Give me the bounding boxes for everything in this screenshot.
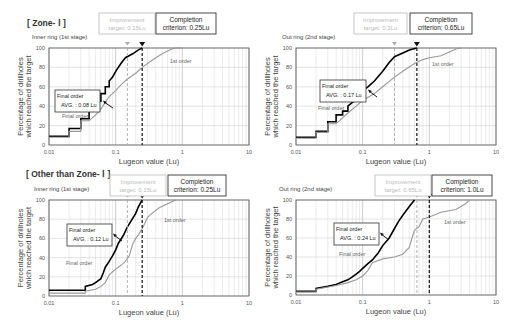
y-tick-label: 40 [286, 254, 292, 260]
completion-criterion-value: criterion: 1.0Lu [441, 186, 484, 193]
y-tick-label: 60 [286, 84, 292, 90]
x-axis-label: Lugeon value (Lu) [366, 307, 427, 316]
y-axis-label: Percentage of drillholeswhich reached th… [16, 55, 33, 139]
completion-criterion-value: criterion: 0.65Lu [418, 24, 465, 31]
y-axis-label: Percentage of drillholeswhich reached th… [263, 206, 280, 290]
y-tick-label: 40 [286, 103, 292, 109]
first-order-label: 1st order [444, 219, 466, 225]
improvement-target-value: target: 0.65Lu [384, 187, 421, 193]
avg-annotation-title: Final order [57, 93, 83, 99]
y-tick-label: 0 [289, 142, 292, 148]
y-tick-label: 0 [42, 293, 45, 299]
avg-annotation-value: AVG. : 0.17 Lu [326, 92, 362, 98]
first-order-label: 1st order [170, 58, 192, 64]
final-order-label: Final order [339, 251, 365, 257]
improvement-target-label: Improvement [109, 17, 144, 23]
chart-panel-1: Inner ring (1st stage)0204060801000.010.… [16, 13, 252, 166]
y-tick-label: 60 [286, 235, 292, 241]
y-tick-label: 80 [39, 216, 45, 222]
y-tick-label: 100 [36, 197, 45, 203]
improvement-target-label: Improvement [120, 179, 155, 185]
chart-panel-4: Out ring (2nd stage)0204060801000.010.11… [263, 175, 499, 316]
completion-criterion-label: Completion [425, 16, 458, 24]
y-tick-label: 80 [286, 64, 292, 70]
x-tick-label: 0.1 [112, 300, 120, 306]
x-axis-label: Lugeon value (Lu) [119, 157, 180, 166]
x-axis-label: Lugeon value (Lu) [366, 157, 427, 166]
y-tick-label: 80 [286, 216, 292, 222]
improvement-target-label: Improvement [385, 179, 420, 185]
completion-criterion-label: Completion [170, 16, 203, 24]
x-tick-label: 10 [493, 149, 499, 155]
x-tick-label: 10 [246, 300, 252, 306]
final-order-label: Final order [318, 105, 344, 111]
x-tick-label: 0.01 [44, 300, 55, 306]
improvement-target-value: target: 0.3Lu [364, 25, 398, 31]
y-tick-label: 0 [289, 292, 292, 298]
avg-annotation-value: AVG. : 0.12 Lu [73, 236, 109, 242]
plot-frame [296, 200, 496, 295]
completion-criterion-value: criterion: 0.25Lu [174, 186, 221, 193]
section-header-zone1: [ Zone- Ⅰ ] [27, 18, 66, 28]
chart-panel-2: Out ring (2nd stage)0204060801000.010.11… [263, 13, 499, 166]
x-tick-label: 0.01 [44, 149, 55, 155]
panel-subtitle: Out ring (2nd stage) [279, 186, 332, 192]
x-tick-label: 0.1 [112, 149, 120, 155]
x-tick-label: 1 [428, 149, 431, 155]
completion-marker-icon [414, 42, 420, 47]
final-order-label: Final order [62, 113, 88, 119]
y-axis-label: Percentage of drillholeswhich reached th… [263, 55, 280, 139]
avg-annotation-title: Final order [336, 226, 362, 232]
x-axis-label: Lugeon value (Lu) [119, 308, 180, 317]
first-order-label: 1st order [432, 61, 454, 67]
y-tick-label: 20 [286, 123, 292, 129]
improvement-target-value: target: 0.15Lu [119, 187, 156, 193]
improvement-target-value: target: 0.15Lu [108, 25, 145, 31]
y-axis-label: Percentage of drillholeswhich reached th… [16, 206, 33, 290]
first-order-label: 1st order [164, 217, 186, 223]
x-tick-label: 0.01 [291, 299, 302, 305]
y-tick-label: 60 [39, 84, 45, 90]
x-tick-label: 10 [493, 299, 499, 305]
avg-annotation-title: Final order [322, 83, 348, 89]
x-tick-label: 0.01 [291, 149, 302, 155]
improvement-marker-icon [392, 42, 397, 46]
final-order-line [296, 200, 415, 291]
y-tick-label: 20 [286, 273, 292, 279]
avg-annotation-value: AVG. : 0.24 Lu [340, 235, 376, 241]
x-tick-label: 10 [246, 149, 252, 155]
improvement-target-label: Improvement [363, 17, 398, 23]
panel-subtitle: Inner ring (1st stage) [32, 34, 87, 40]
y-tick-label: 0 [42, 142, 45, 148]
y-tick-label: 100 [283, 45, 292, 51]
x-tick-label: 0.1 [359, 149, 367, 155]
improvement-marker-icon [125, 42, 130, 46]
chart-panel-3: Inner ring (1st stage)0204060801000.010.… [16, 175, 252, 317]
plot-frame [49, 200, 249, 296]
completion-criterion-label: Completion [181, 178, 214, 186]
y-tick-label: 40 [39, 255, 45, 261]
x-tick-label: 0.1 [359, 299, 367, 305]
y-tick-label: 20 [39, 123, 45, 129]
x-tick-label: 1 [428, 299, 431, 305]
y-tick-label: 40 [39, 103, 45, 109]
figure-canvas: [ Zone- Ⅰ ] [ Other than Zone- Ⅰ ] Inner… [0, 0, 517, 333]
y-tick-label: 20 [39, 274, 45, 280]
y-tick-label: 100 [283, 197, 292, 203]
completion-criterion-label: Completion [446, 178, 479, 186]
panel-subtitle: Inner ring (1st stage) [34, 186, 89, 192]
panel-subtitle: Out ring (2nd stage) [282, 34, 335, 40]
final-order-label: Final order [66, 260, 92, 266]
y-tick-label: 100 [36, 45, 45, 51]
x-tick-label: 1 [181, 149, 184, 155]
completion-criterion-value: criterion: 0.25Lu [163, 24, 210, 31]
completion-marker-icon [139, 42, 145, 47]
section-header-other: [ Other than Zone- Ⅰ ] [26, 169, 110, 179]
y-tick-label: 80 [39, 64, 45, 70]
avg-annotation-title: Final order [69, 227, 95, 233]
x-tick-label: 1 [181, 300, 184, 306]
avg-annotation-value: AVG. : 0.08 Lu [61, 102, 97, 108]
y-tick-label: 60 [39, 235, 45, 241]
